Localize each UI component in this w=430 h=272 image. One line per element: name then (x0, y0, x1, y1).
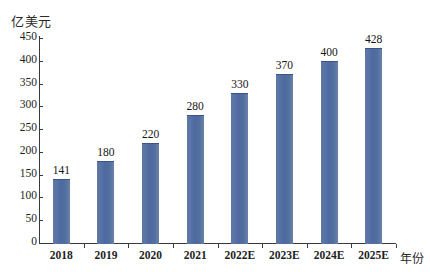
y-axis-title: 亿美元 (11, 11, 52, 30)
y-axis-tick-label: 50 (26, 212, 38, 224)
y-axis-tick-label: 250 (20, 121, 37, 133)
x-axis-tick-mark (262, 244, 263, 248)
y-axis-tick-label: 200 (20, 144, 37, 156)
bar (231, 93, 248, 244)
y-axis-tick-mark (39, 197, 43, 198)
bar-value-label: 220 (129, 128, 173, 140)
bar-value-label: 280 (173, 100, 217, 112)
x-axis-tick-mark (84, 244, 85, 248)
x-axis-tick-label: 2022E (216, 249, 264, 261)
x-axis-tick-mark (307, 244, 308, 248)
bar (142, 143, 159, 244)
bar-value-label: 428 (352, 33, 396, 45)
bar-value-label: 141 (39, 164, 83, 176)
x-axis-tick-mark (351, 244, 352, 248)
bar (276, 74, 293, 244)
x-axis-tick-label: 2021 (171, 249, 219, 261)
x-axis-tick-label: 2019 (82, 249, 130, 261)
x-axis-tick-mark (173, 244, 174, 248)
y-axis-tick-label: 0 (31, 235, 37, 247)
bar-chart: 亿美元 050100150200250300350400450 14118022… (0, 0, 430, 272)
bar-value-label: 370 (262, 59, 306, 71)
y-axis-tick-label: 100 (20, 189, 37, 201)
y-axis-tick-mark (39, 152, 43, 153)
x-axis-tick-mark (218, 244, 219, 248)
y-axis-tick-label: 300 (20, 98, 37, 110)
y-axis-tick-mark (39, 243, 43, 244)
y-axis-line (39, 36, 40, 244)
bar-value-label: 330 (218, 78, 262, 90)
y-axis-tick-mark (39, 106, 43, 107)
x-axis-tick-label: 2020 (127, 249, 175, 261)
bar (365, 48, 382, 244)
bar (97, 161, 114, 244)
x-axis-tick-mark (396, 244, 397, 248)
y-axis-tick-mark (39, 220, 43, 221)
bar-value-label: 180 (84, 146, 128, 158)
x-axis-tick-label: 2025E (350, 249, 398, 261)
y-axis-tick-mark (39, 84, 43, 85)
y-axis-tick-mark (39, 38, 43, 39)
bar (53, 179, 70, 244)
bar-value-label: 400 (307, 46, 351, 58)
y-axis-tick-label: 400 (20, 53, 37, 65)
x-axis-tick-mark (128, 244, 129, 248)
bar (321, 61, 338, 244)
y-axis-tick-label: 450 (20, 30, 37, 42)
x-axis-tick-label: 2024E (305, 249, 353, 261)
x-axis-tick-label: 2023E (260, 249, 308, 261)
y-axis-tick-mark (39, 61, 43, 62)
x-axis-title: 年份 (400, 249, 424, 266)
y-axis-tick-label: 350 (20, 76, 37, 88)
y-axis-tick-label: 150 (20, 167, 37, 179)
y-axis-tick-mark (39, 129, 43, 130)
bar (187, 115, 204, 244)
x-axis-tick-label: 2018 (37, 249, 85, 261)
